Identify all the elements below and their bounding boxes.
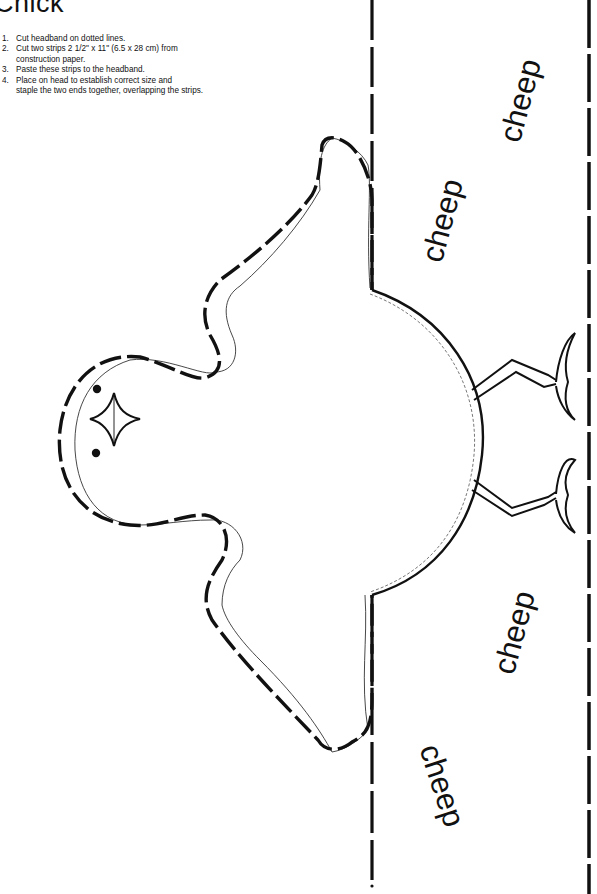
chick-body-outline [372, 290, 483, 595]
cut-line-end-dot [370, 884, 373, 887]
eye-top-icon [93, 385, 101, 393]
eye-bottom-icon [92, 449, 100, 457]
chick-leg-top [472, 333, 575, 420]
chick-dashed-cut-outline [59, 138, 372, 749]
chick-body-fuzz [370, 294, 475, 592]
chick-leg-bottom [472, 459, 575, 533]
beak-icon [90, 393, 140, 446]
chick-fuzzy-outline [75, 138, 372, 752]
